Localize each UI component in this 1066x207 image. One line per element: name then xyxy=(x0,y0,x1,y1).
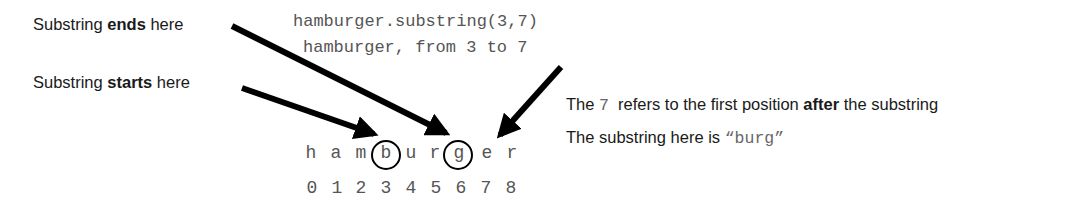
arrow-seven-icon xyxy=(500,67,561,135)
arrow-starts-icon xyxy=(242,88,374,134)
circle-start-icon xyxy=(372,141,400,169)
circle-end-icon xyxy=(444,141,472,169)
arrow-ends-icon xyxy=(232,26,446,133)
diagram-graphics xyxy=(0,0,1066,207)
